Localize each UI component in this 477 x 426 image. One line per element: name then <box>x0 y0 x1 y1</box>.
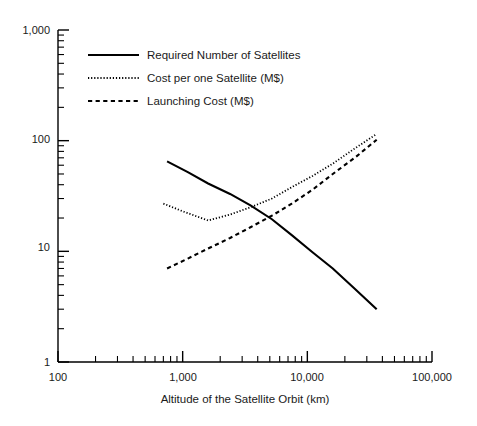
legend-item-cost-per-one-satellite: Cost per one Satellite (M$) <box>88 72 284 84</box>
y-tick-label-1: 1 <box>44 356 50 368</box>
y-axis-tick-labels: 1,000 100 10 1 <box>22 24 50 368</box>
x-tick-label-100: 100 <box>49 371 67 383</box>
series-line-0 <box>167 161 377 309</box>
x-axis-ticks <box>58 351 432 362</box>
x-tick-label-10000: 10,000 <box>290 371 324 383</box>
legend-label-1: Cost per one Satellite (M$) <box>147 72 284 84</box>
log-log-line-chart: 1,000 100 10 1 100 1,000 10,000 100,000 … <box>0 0 477 426</box>
x-tick-label-100000: 100,000 <box>412 371 452 383</box>
y-tick-label-100: 100 <box>32 133 50 145</box>
chart-figure: 1,000 100 10 1 100 1,000 10,000 100,000 … <box>0 0 477 426</box>
legend-item-launching-cost: Launching Cost (M$) <box>88 95 254 107</box>
x-axis-tick-labels: 100 1,000 10,000 100,000 <box>49 371 452 383</box>
x-tick-label-1000: 1,000 <box>169 371 197 383</box>
y-tick-label-1000: 1,000 <box>22 24 50 36</box>
legend-item-required-number-of-satellites: Required Number of Satellites <box>88 49 301 61</box>
x-axis-title: Altitude of the Satellite Orbit (km) <box>161 393 330 405</box>
y-tick-label-10: 10 <box>38 241 50 253</box>
y-axis-ticks <box>58 30 69 362</box>
chart-legend: Required Number of Satellites Cost per o… <box>88 49 301 107</box>
series-line-2 <box>167 140 377 269</box>
legend-label-0: Required Number of Satellites <box>147 49 301 61</box>
data-series-group <box>163 134 376 309</box>
legend-label-2: Launching Cost (M$) <box>147 95 254 107</box>
